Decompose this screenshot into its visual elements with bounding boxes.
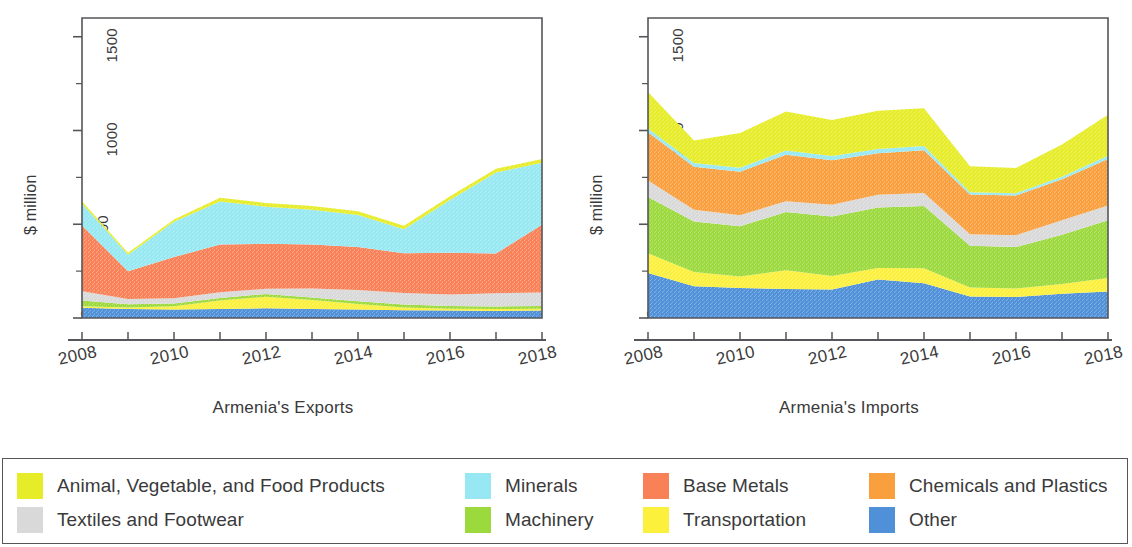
imports-chart-title: Armenia's Imports [566, 398, 1132, 418]
legend-item[interactable]: Animal, Vegetable, and Food Products [17, 473, 385, 499]
legend-item[interactable]: Machinery [465, 507, 594, 533]
legend: Animal, Vegetable, and Food ProductsMine… [2, 458, 1128, 544]
legend-label: Minerals [505, 475, 578, 497]
legend-swatch [643, 473, 669, 499]
legend-item[interactable]: Transportation [643, 507, 806, 533]
legend-swatch [17, 507, 43, 533]
legend-label: Base Metals [683, 475, 789, 497]
legend-swatch [465, 507, 491, 533]
legend-label: Other [909, 509, 957, 531]
legend-swatch [869, 473, 895, 499]
legend-swatch [643, 507, 669, 533]
charts-container: $ million 050010001500 20082010201220142… [0, 0, 1132, 440]
legend-label: Animal, Vegetable, and Food Products [57, 475, 385, 497]
legend-item[interactable]: Base Metals [643, 473, 789, 499]
legend-swatch [869, 507, 895, 533]
imports-plot-area [566, 0, 1132, 440]
legend-grid: Animal, Vegetable, and Food ProductsMine… [3, 459, 1127, 543]
legend-swatch [465, 473, 491, 499]
legend-item[interactable]: Minerals [465, 473, 578, 499]
legend-item[interactable]: Other [869, 507, 957, 533]
legend-item[interactable]: Chemicals and Plastics [869, 473, 1108, 499]
exports-plot-area [0, 0, 566, 440]
imports-chart-panel: $ million 050010001500 20082010201220142… [566, 0, 1132, 440]
legend-item[interactable]: Textiles and Footwear [17, 507, 244, 533]
legend-swatch [17, 473, 43, 499]
legend-label: Textiles and Footwear [57, 509, 244, 531]
exports-chart-title: Armenia's Exports [0, 398, 566, 418]
legend-label: Chemicals and Plastics [909, 475, 1108, 497]
legend-label: Transportation [683, 509, 806, 531]
legend-label: Machinery [505, 509, 594, 531]
exports-chart-panel: $ million 050010001500 20082010201220142… [0, 0, 566, 440]
